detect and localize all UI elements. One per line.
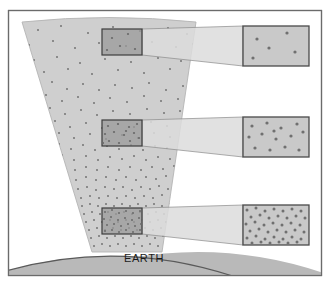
inset-bottom[interactable]	[243, 205, 309, 245]
sample-box-bottom[interactable]	[102, 208, 142, 234]
diagram-canvas: EARTH	[0, 0, 332, 291]
inset-middle[interactable]	[243, 117, 309, 157]
physics-diagram: EARTH	[0, 0, 332, 291]
inset-panels	[243, 26, 309, 245]
inset-top-rect[interactable]	[243, 26, 309, 66]
sample-box-middle[interactable]	[102, 120, 142, 146]
sample-box-top[interactable]	[102, 29, 142, 55]
sample-box-top-rect[interactable]	[102, 29, 142, 55]
inset-top[interactable]	[243, 26, 309, 66]
earth-label: EARTH	[124, 252, 164, 264]
sample-box-bottom-rect[interactable]	[102, 208, 142, 234]
